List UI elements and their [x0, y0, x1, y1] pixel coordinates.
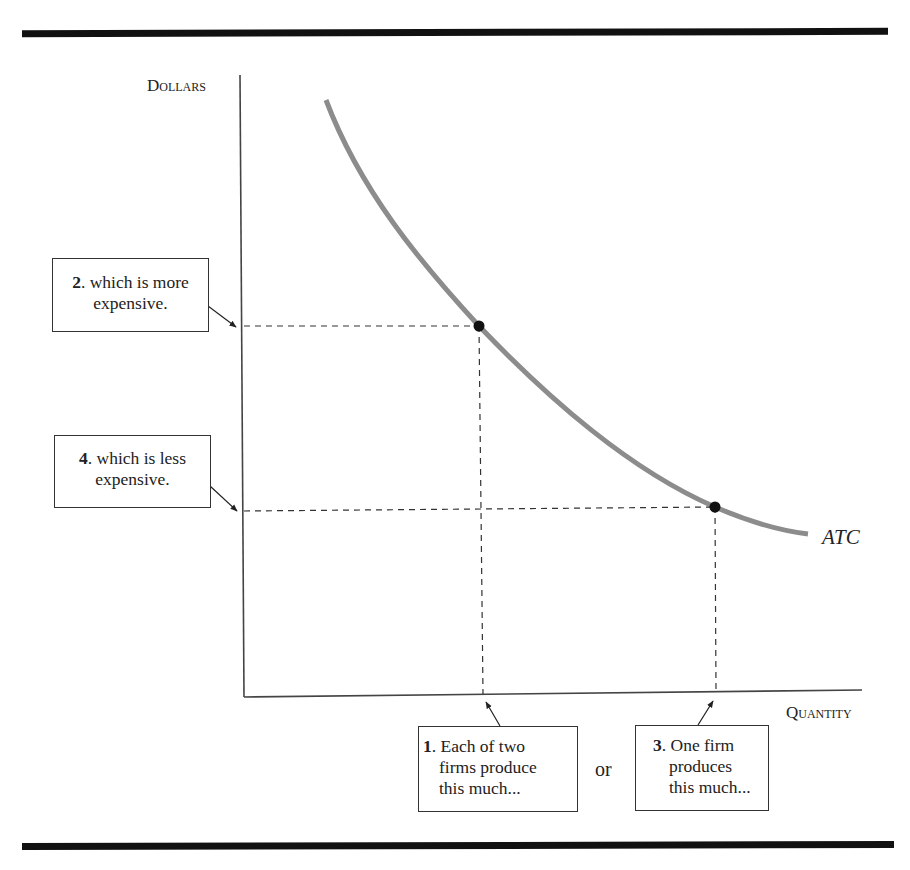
callout-less-expensive: 4. which is less expensive. — [54, 435, 211, 508]
atc-curve-label: ATC — [822, 525, 860, 550]
callout-line: firms produce — [439, 757, 577, 778]
callout-line: 2. which is more — [53, 272, 208, 293]
callout-line: expensive. — [53, 293, 208, 314]
callout-line: 4. which is less — [55, 448, 210, 469]
x-axis — [244, 690, 862, 697]
callout-line: this much... — [669, 777, 768, 798]
step-number: 4 — [79, 448, 88, 468]
callout-line: 1. Each of two — [423, 736, 577, 757]
step-number: 3 — [653, 735, 662, 755]
guide-low-cost — [244, 507, 715, 511]
callout-two-firms: 1. Each of two firms produce this much..… — [418, 726, 578, 812]
callout-line: this much... — [439, 778, 577, 799]
or-connector: or — [595, 758, 612, 781]
callout-line: expensive. — [55, 469, 210, 490]
callout-more-expensive: 2. which is more expensive. — [52, 258, 209, 332]
x-axis-label: Quantity — [786, 703, 852, 723]
arrow-callout-2 — [208, 306, 236, 327]
callout-arrows — [208, 306, 713, 726]
point-one-firm — [710, 502, 721, 513]
callout-line: 3. One firm — [653, 735, 768, 756]
step-number: 1 — [423, 736, 432, 756]
arrow-callout-3 — [698, 701, 713, 725]
arrow-callout-4 — [210, 486, 237, 511]
callout-one-firm: 3. One firm produces this much... — [635, 725, 769, 811]
guide-large-quantity — [715, 507, 716, 691]
y-axis — [240, 75, 244, 697]
step-number: 2 — [72, 272, 81, 292]
callout-line: produces — [669, 756, 768, 777]
atc-curve — [326, 100, 808, 534]
axes — [240, 75, 862, 697]
guide-small-quantity — [479, 326, 483, 694]
guide-lines — [244, 326, 716, 694]
y-axis-label: Dollars — [147, 76, 206, 96]
point-two-firms — [474, 321, 485, 332]
arrow-callout-1 — [486, 702, 500, 726]
